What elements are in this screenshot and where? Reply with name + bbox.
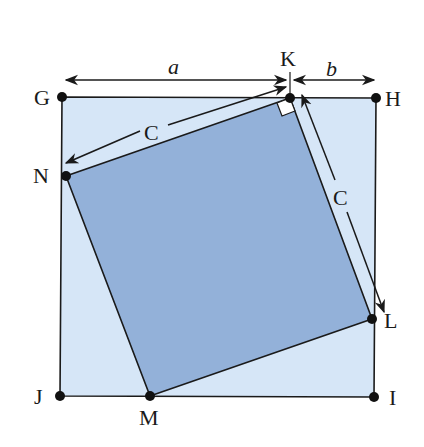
label-c-right: C [333, 185, 348, 210]
label-i: I [389, 385, 396, 410]
label-k: K [280, 46, 296, 71]
label-g: G [34, 85, 50, 110]
label-m: M [139, 405, 159, 430]
label-b: b [326, 56, 337, 81]
label-c-top: C [144, 120, 159, 145]
label-n: N [33, 163, 49, 188]
pythagorean-diagram: G K H N L J M I a b C C [0, 0, 424, 447]
label-a: a [168, 54, 179, 79]
label-h: H [385, 86, 401, 111]
label-l: L [384, 308, 397, 333]
label-j: J [34, 384, 43, 409]
